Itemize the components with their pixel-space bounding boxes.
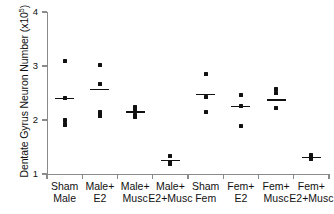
data-point [309, 157, 313, 161]
data-point [239, 93, 243, 97]
data-point [133, 115, 137, 119]
data-point [63, 96, 67, 100]
y-axis-tick [42, 65, 47, 66]
x-axis-tick [258, 174, 259, 179]
y-axis-title: Dentate Gyrus Neuron Number (x105) [18, 0, 31, 184]
data-point [239, 104, 243, 108]
y-axis-line [47, 12, 48, 175]
data-point [133, 107, 137, 111]
x-axis-tick [117, 174, 118, 179]
data-point [98, 63, 102, 67]
category-label-line1: Fem+ [282, 181, 334, 193]
x-axis-category-label: Fem+E2+Musc [282, 181, 334, 204]
x-axis-tick [328, 174, 329, 179]
mean-line [90, 89, 109, 90]
dot-plot-figure: Dentate Gyrus Neuron Number (x105) 1234 … [0, 0, 334, 214]
y-axis-tick [42, 119, 47, 120]
data-point [239, 124, 243, 128]
x-axis-tick [82, 174, 83, 179]
y-axis-title-text: Dentate Gyrus Neuron Number (x10 [18, 12, 30, 177]
data-point [204, 72, 208, 76]
data-point [98, 82, 102, 86]
data-point [274, 91, 278, 95]
x-axis-tick [187, 174, 188, 179]
y-axis-tick-label: 1 [14, 169, 38, 179]
x-axis-tick [152, 174, 153, 179]
data-point [168, 162, 172, 166]
y-axis-tick-label: 3 [14, 61, 38, 71]
data-point [98, 114, 102, 118]
data-point [168, 154, 172, 158]
data-point [274, 106, 278, 110]
data-point [204, 110, 208, 114]
y-axis-tick-label: 2 [14, 115, 38, 125]
x-axis-tick [46, 174, 47, 179]
data-point [63, 123, 67, 127]
data-point [204, 95, 208, 99]
y-axis-tick-label: 4 [14, 7, 38, 17]
x-axis-tick [293, 174, 294, 179]
mean-line [267, 99, 286, 100]
y-axis-tick [42, 11, 47, 12]
data-point [63, 59, 67, 63]
category-label-line2: E2+Musc [282, 193, 334, 205]
x-axis-tick [223, 174, 224, 179]
